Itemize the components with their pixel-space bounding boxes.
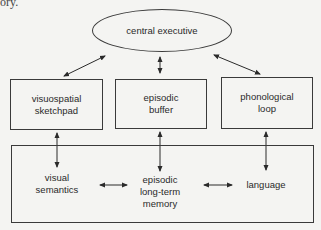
phonological-label-line1: phonological — [240, 91, 293, 103]
visual-semantics-line1: visual — [22, 172, 92, 184]
episodic-ltm-line1: episodic — [125, 174, 195, 186]
language-label: language — [236, 179, 296, 191]
episodic-buffer-box: episodic buffer — [115, 79, 207, 129]
episodic-buffer-label-line1: episodic — [144, 92, 179, 104]
episodic-ltm-line3: memory — [125, 198, 195, 210]
visual-semantics-line2: semantics — [22, 184, 92, 196]
phonological-label-line2: loop — [240, 103, 293, 115]
arrow-exec-visuospatial — [64, 56, 105, 76]
arrow-exec-phonological — [214, 55, 260, 74]
phonological-loop-box: phonological loop — [221, 77, 313, 129]
visuospatial-sketchpad-box: visuospatial sketchpad — [10, 79, 103, 130]
central-executive-label: central executive — [126, 25, 197, 37]
language-line1: language — [236, 179, 296, 191]
visuospatial-label-line2: sketchpad — [32, 105, 82, 117]
central-executive-node: central executive — [92, 9, 232, 52]
visual-semantics-label: visual semantics — [22, 172, 92, 196]
episodic-ltm-line2: long-term — [125, 186, 195, 198]
episodic-buffer-label-line2: buffer — [144, 104, 179, 116]
episodic-ltm-label: episodic long-term memory — [125, 174, 195, 210]
visuospatial-label-line1: visuospatial — [32, 93, 82, 105]
